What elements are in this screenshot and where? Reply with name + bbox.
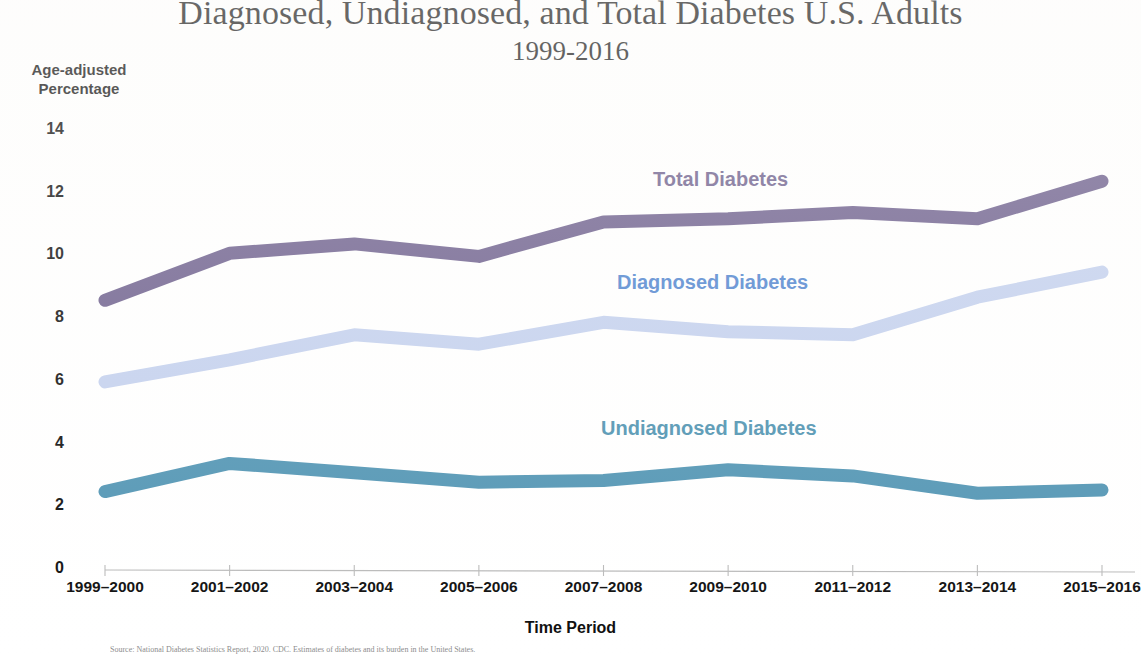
x-tick-0: 1999–2000 bbox=[66, 578, 144, 596]
series-lines bbox=[105, 181, 1102, 493]
chart-canvas bbox=[0, 0, 1141, 658]
series-line-total-diabetes bbox=[105, 181, 1102, 300]
series-line-undiagnosed-diabetes bbox=[105, 463, 1102, 493]
x-axis-line bbox=[105, 570, 1135, 572]
series-line-diagnosed-diabetes bbox=[105, 272, 1102, 382]
series-label-total-diabetes: Total Diabetes bbox=[653, 168, 788, 191]
x-tick-8: 2015–2016 bbox=[1063, 578, 1141, 596]
plot-area: 14121086420 1999–20002001–20022003–20042… bbox=[0, 0, 1141, 658]
y-tick-4: 4 bbox=[8, 434, 64, 452]
x-tick-3: 2005–2006 bbox=[440, 578, 518, 596]
x-axis-title: Time Period bbox=[0, 619, 1141, 637]
x-tick-7: 2013–2014 bbox=[939, 578, 1017, 596]
series-label-undiagnosed-diabetes: Undiagnosed Diabetes bbox=[601, 417, 817, 440]
y-tick-2: 2 bbox=[8, 496, 64, 514]
x-tick-2: 2003–2004 bbox=[315, 578, 393, 596]
y-tick-0: 0 bbox=[8, 559, 64, 577]
series-label-diagnosed-diabetes: Diagnosed Diabetes bbox=[617, 271, 808, 294]
source-note: Source: National Diabetes Statistics Rep… bbox=[110, 645, 1110, 654]
y-tick-6: 6 bbox=[8, 371, 64, 389]
x-tick-5: 2009–2010 bbox=[689, 578, 767, 596]
x-tick-6: 2011–2012 bbox=[814, 578, 891, 596]
y-tick-10: 10 bbox=[8, 245, 64, 263]
y-tick-8: 8 bbox=[8, 308, 64, 326]
axis-lines bbox=[105, 570, 1135, 572]
x-tick-1: 2001–2002 bbox=[191, 578, 269, 596]
x-tick-4: 2007–2008 bbox=[565, 578, 643, 596]
y-tick-12: 12 bbox=[8, 183, 64, 201]
y-tick-14: 14 bbox=[8, 120, 64, 138]
